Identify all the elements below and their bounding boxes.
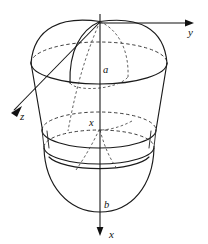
- meridian-dashed-mid-right: [100, 121, 132, 130]
- z-axis-label: z: [19, 110, 25, 122]
- top-ellipse-back-arc: [31, 42, 167, 63]
- upper-left-lateral-edge: [31, 63, 43, 130]
- mid-upper-ellipse-back-arc: [42, 112, 156, 130]
- label-x-origin: x: [88, 117, 94, 128]
- mid-upper-ellipse-front-arc: [42, 130, 156, 148]
- top-ellipse-front-arc: [31, 63, 167, 84]
- mid-lower-ellipse-back-arc: [44, 130, 154, 147]
- collar-right-inner-edge: [149, 131, 151, 148]
- bowl-inner-rim-front-arc: [49, 157, 149, 169]
- upper-right-lateral-edge: [156, 63, 167, 130]
- collar-left-inner-edge: [47, 131, 49, 148]
- mid-lower-ellipse-front-arc: [44, 147, 154, 164]
- y-axis-label: y: [187, 26, 193, 38]
- label-b: b: [104, 199, 109, 210]
- x-axis-arrowhead-icon: [97, 227, 104, 236]
- z-axis-line: [14, 22, 100, 110]
- solid-of-revolution-diagram: y x z a b x: [0, 0, 208, 244]
- inner-cap-left-meridian: [70, 22, 100, 84]
- x-axis-label: x: [108, 228, 114, 240]
- lower-bowl-outline: [44, 148, 154, 212]
- label-a: a: [103, 64, 108, 75]
- math-figure-container: y x z a b x: [0, 0, 208, 244]
